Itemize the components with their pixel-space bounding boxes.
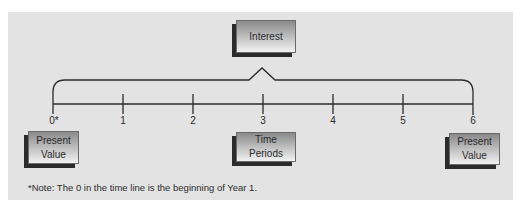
time-periods-box: Time Periods — [236, 132, 296, 162]
present-value-left-line1: Present — [36, 134, 70, 148]
interest-label: Interest — [249, 30, 282, 44]
tick-label-5: 5 — [400, 115, 406, 126]
footnote: *Note: The 0 in the time line is the beg… — [28, 182, 257, 193]
present-value-left-line2: Value — [41, 148, 66, 162]
present-value-left-box: Present Value — [28, 131, 79, 164]
time-periods-label: Time Periods — [237, 133, 295, 161]
tick-label-2: 2 — [190, 115, 196, 126]
interest-box: Interest — [236, 20, 296, 53]
present-value-right-box: Present Value — [449, 133, 500, 165]
tick-label-4: 4 — [330, 115, 336, 126]
tick-label-3: 3 — [260, 115, 266, 126]
present-value-right-line2: Value — [462, 149, 487, 163]
tick-label-1: 1 — [120, 115, 126, 126]
tick-label-0: 0* — [49, 115, 58, 126]
present-value-right-line1: Present — [457, 135, 491, 149]
tick-label-6: 6 — [470, 115, 476, 126]
